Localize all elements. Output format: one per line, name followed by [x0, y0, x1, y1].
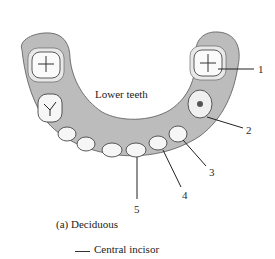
diagram-title: Lower teeth: [95, 88, 148, 100]
lower-teeth-illustration: [0, 0, 275, 259]
right-first-molar: [188, 90, 212, 118]
label-1: 1: [258, 63, 264, 75]
label-2: 2: [246, 124, 252, 136]
answer-text: Central incisor: [94, 243, 159, 255]
diagram-caption: (a) Deciduous: [56, 218, 118, 230]
right-second-molar: [190, 46, 226, 80]
label-4: 4: [182, 189, 188, 201]
answer-blank[interactable]: [75, 251, 90, 252]
label-3: 3: [209, 166, 215, 178]
label-5: 5: [134, 203, 140, 215]
answer-row: Central incisor: [75, 243, 159, 255]
left-first-molar: [38, 94, 62, 122]
left-second-molar: [28, 48, 64, 82]
